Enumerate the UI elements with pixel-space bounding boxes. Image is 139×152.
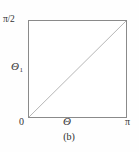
y-axis-label-subscript: 1 (19, 66, 23, 74)
plot-frame (28, 20, 127, 118)
x-axis-max-tick-label: π (125, 117, 130, 127)
y-axis-label-symbol: Θ (11, 60, 19, 72)
x-axis-label: Θ (63, 116, 71, 127)
diagonal-line (29, 21, 126, 117)
x-axis-min-tick-label: 0 (19, 117, 24, 127)
y-axis-label: Θ1 (11, 61, 23, 74)
y-axis-max-tick-label: π/2 (3, 15, 15, 25)
figure-panel: π/2 Θ1 0 Θ π (b) (0, 0, 139, 152)
figure-caption: (b) (63, 132, 75, 142)
